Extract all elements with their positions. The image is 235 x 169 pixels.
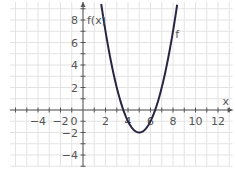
x-tick-label: 2 — [102, 115, 109, 128]
y-tick-label: 8 — [71, 14, 78, 27]
x-tick-label: 8 — [170, 115, 177, 128]
y-axis-arrow-icon — [81, 2, 86, 7]
x-axis-arrow-icon — [228, 108, 233, 113]
y-tick-label: 4 — [71, 59, 78, 72]
x-axis-label: x — [223, 95, 230, 108]
y-tick-label: −4 — [62, 149, 78, 162]
x-tick-label: −4 — [30, 115, 46, 128]
grid-lines — [10, 2, 233, 166]
curve-label: f — [175, 28, 180, 41]
x-tick-label: 12 — [211, 115, 225, 128]
axes — [10, 2, 233, 166]
y-axis-label: f(x) — [87, 14, 106, 27]
function-plot: −4−2024681012−4−22468 f(x) x f — [0, 0, 235, 169]
y-tick-label: −2 — [62, 127, 78, 140]
y-tick-label: 2 — [71, 82, 78, 95]
y-tick-label: 6 — [71, 37, 78, 50]
x-tick-label: 10 — [189, 115, 203, 128]
